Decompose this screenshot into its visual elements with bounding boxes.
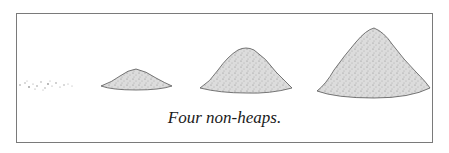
figure-caption: Four non-heaps. — [0, 108, 449, 128]
scattered-grains — [19, 81, 72, 91]
small-pile — [101, 69, 172, 90]
piles-illustration — [0, 0, 449, 153]
large-pile — [317, 28, 430, 98]
medium-pile — [200, 48, 292, 93]
